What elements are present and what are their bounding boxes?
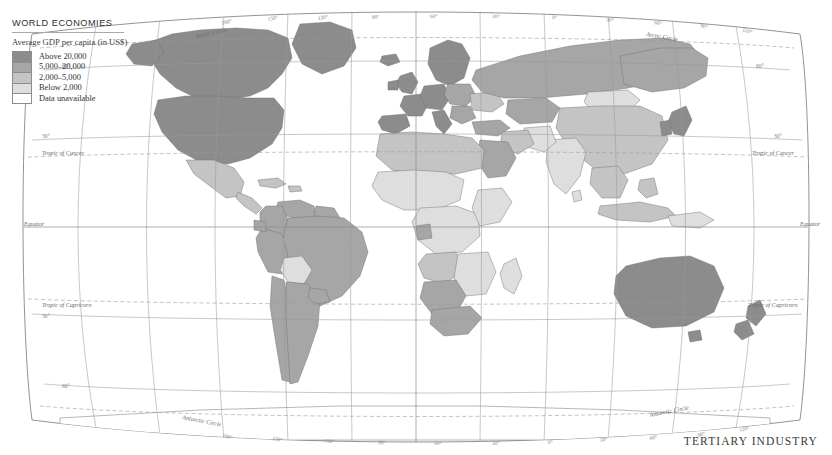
region-tasmania: [688, 330, 702, 342]
region-ecuador: [254, 220, 266, 232]
region-hispaniola: [288, 186, 302, 192]
region-gabon: [416, 224, 432, 240]
lon-label-bottom-150: 150°: [272, 435, 283, 443]
lon-label-top-30e: 30°: [606, 16, 614, 23]
legend-swatch-2000-5000: [12, 72, 32, 83]
footer-caption: TERTIARY INDUSTRY: [684, 435, 818, 447]
legend-item: Below 2,000: [12, 83, 162, 94]
lon-label-top-0: 0°: [552, 14, 557, 20]
region-korea: [660, 120, 672, 136]
legend-item: 2,000–5,000: [12, 72, 162, 83]
lon-label-bottom-30: 30°: [492, 440, 500, 446]
legend-item: 5,000–20,000: [12, 62, 162, 73]
lon-label-bottom-90: 90°: [378, 439, 386, 446]
legend-subtitle: Average GDP per capita (in US$): [12, 37, 162, 47]
legend-swatch-data-unavailable: [12, 93, 32, 104]
legend-swatch-below-2000: [12, 83, 32, 94]
lon-label-top-30: 30°: [492, 13, 500, 19]
lon-label-bottom-0: 0°: [548, 439, 553, 445]
tropic-of-cancer-label-right: Tropic of Cancer: [752, 149, 795, 156]
lon-label-bottom-180: 180°: [222, 432, 233, 440]
lon-label-bottom-60: 60°: [434, 440, 442, 446]
legend-swatch-5000-20000: [12, 62, 32, 73]
legend-divider: [12, 32, 124, 33]
tropic-of-cancer-label-left: Tropic of Cancer: [42, 149, 85, 156]
lat-label-left-30n: 30°: [42, 133, 50, 139]
legend-label-2000-5000: 2,000–5,000: [39, 73, 81, 82]
tropic-of-capricorn-label-left: Tropic of Capricorn: [42, 301, 92, 308]
map-legend: WORLD ECONOMIES Average GDP per capita (…: [12, 18, 162, 104]
legend-items-list: Above 20,000 5,000–20,000 2,000–5,000 Be…: [12, 51, 162, 104]
region-north-africa: [376, 132, 484, 174]
lon-label-top-60: 60°: [430, 13, 438, 19]
equator-label-left: Equator: [23, 220, 45, 227]
legend-label-below-2000: Below 2,000: [39, 83, 82, 92]
world-economies-map-page: 180° 150° 120° 90° 60° 30° 0° 30° 60° 90…: [0, 0, 832, 455]
legend-label-5000-20000: 5,000–20,000: [39, 62, 85, 71]
lon-label-bottom-120: 120°: [324, 437, 335, 444]
lat-label-left-60s: 60°: [62, 383, 70, 389]
legend-title: WORLD ECONOMIES: [12, 18, 162, 31]
lon-label-top-90: 90°: [372, 13, 380, 20]
lat-label-right-60n: 60°: [756, 63, 764, 69]
lat-label-right-30n: 30°: [774, 133, 782, 139]
legend-swatch-above-20000: [12, 51, 32, 62]
lat-label-left-30s: 30°: [42, 313, 50, 319]
legend-label-data-unavailable: Data unavailable: [39, 94, 96, 103]
legend-label-above-20000: Above 20,000: [39, 52, 86, 61]
equator-label-right: Equator: [799, 220, 821, 227]
lon-label-bottom-60e: 60°: [649, 434, 658, 441]
legend-item: Above 20,000: [12, 51, 162, 62]
tropic-of-capricorn-label-right: Tropic of Capricorn: [748, 301, 798, 308]
region-sri-lanka: [572, 190, 582, 202]
lon-label-bottom-30e: 30°: [599, 436, 607, 443]
region-ireland: [388, 80, 398, 90]
legend-item: Data unavailable: [12, 93, 162, 104]
